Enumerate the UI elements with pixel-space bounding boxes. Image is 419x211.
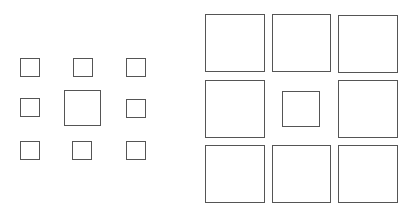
surrounding-square (338, 15, 398, 73)
surrounding-square (272, 14, 331, 72)
center-square (282, 91, 320, 127)
surrounding-square (338, 145, 398, 203)
surrounding-square (205, 80, 265, 138)
surrounding-square (205, 14, 265, 72)
surrounding-square (205, 145, 265, 203)
right-figure (0, 0, 419, 211)
surrounding-square (272, 145, 331, 203)
surrounding-square (338, 80, 398, 138)
